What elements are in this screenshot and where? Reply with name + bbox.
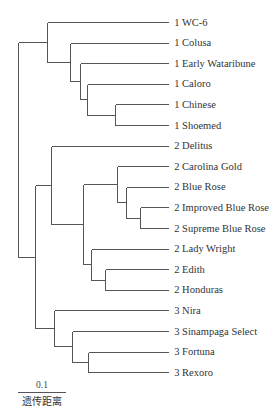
leaf-label: 1 Caloro (174, 78, 210, 89)
leaf-label: 3 Nira (174, 305, 201, 316)
leaf-label: 1 WC-6 (174, 17, 207, 28)
branches (19, 23, 169, 373)
leaf-labels: 1 WC-61 Colusa1 Early Wataribune1 Caloro… (174, 17, 269, 378)
leaf-label: 2 Supreme Blue Rose (174, 223, 266, 234)
leaf-label: 2 Carolina Gold (174, 161, 242, 172)
leaf-label: 1 Shoemed (174, 120, 222, 131)
leaf-label: 1 Early Wataribune (174, 58, 256, 69)
leaf-label: 2 Improved Blue Rose (174, 202, 269, 213)
leaf-label: 3 Sinampaga Select (174, 326, 257, 337)
leaf-label: 3 Rexoro (174, 367, 213, 378)
dendrogram: 1 WC-61 Colusa1 Early Wataribune1 Caloro… (0, 0, 272, 412)
scale-bar: 0.1 遗传距离 (18, 380, 66, 407)
leaf-label: 2 Blue Rose (174, 181, 226, 192)
scale-bar-value: 0.1 (36, 380, 48, 390)
scale-bar-caption: 遗传距离 (22, 395, 62, 407)
leaf-label: 1 Chinese (174, 99, 216, 110)
leaf-label: 2 Delitus (174, 140, 212, 151)
leaf-label: 1 Colusa (174, 37, 211, 48)
leaf-label: 2 Lady Wright (174, 243, 235, 254)
leaf-label: 2 Edith (174, 264, 205, 275)
leaf-label: 3 Fortuna (174, 346, 215, 357)
leaf-label: 2 Honduras (174, 284, 223, 295)
